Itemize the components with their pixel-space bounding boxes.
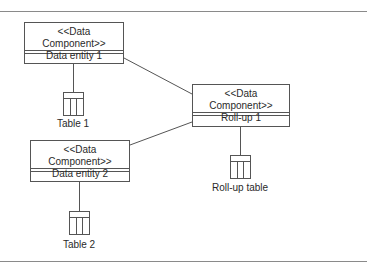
table-icon-2 bbox=[70, 212, 90, 235]
component-data-entity-1[interactable]: <<Data Component>> Data entity 1 bbox=[24, 22, 124, 64]
stereotype-label: <<Data Component>> bbox=[193, 88, 289, 112]
table-label-rollup: Roll-up table bbox=[205, 182, 275, 193]
stereotype-label: <<Data Component>> bbox=[31, 144, 129, 168]
stereotype-label: <<Data Component>> bbox=[25, 26, 123, 50]
table-icon-1 bbox=[64, 93, 84, 116]
connector-entity1-rollup1 bbox=[124, 58, 192, 94]
connector-entity2-rollup1 bbox=[130, 122, 192, 145]
table-label-1: Table 1 bbox=[48, 118, 98, 129]
table-icon-rollup bbox=[231, 156, 251, 179]
component-data-entity-2[interactable]: <<Data Component>> Data entity 2 bbox=[30, 140, 130, 182]
component-roll-up-1[interactable]: <<Data Component>> Roll-up 1 bbox=[192, 84, 290, 127]
table-label-2: Table 2 bbox=[54, 239, 104, 250]
